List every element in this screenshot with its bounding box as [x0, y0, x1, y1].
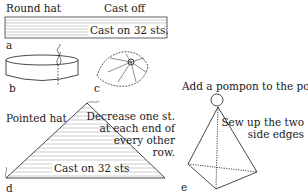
decrease-instruction-2: at each end of [99, 122, 175, 134]
strip-cast-on-label: Cast on 32 sts. [90, 24, 169, 36]
decrease-instruction-4: row. [153, 146, 175, 158]
pompon-icon [211, 94, 223, 106]
panel-label-c: c [94, 82, 100, 94]
knitting-hat-diagram: Round hat Cast off Cast on 32 sts. a b c… [0, 0, 308, 196]
panel-label-a: a [6, 39, 12, 51]
decrease-instruction-1: Decrease one st. [86, 110, 175, 122]
round-hat-title: Round hat [6, 2, 61, 14]
cylinder-b [6, 44, 78, 86]
sew-instruction-2: side edges [248, 128, 304, 140]
panel-label-b: b [9, 82, 16, 94]
sew-instruction-1: Sew up the two [221, 116, 304, 128]
decrease-instruction-3: every other [114, 134, 175, 146]
crown-c [97, 52, 148, 87]
triangle-cast-on-label: Cast on 32 sts [54, 162, 129, 174]
pompon-label: Add a pompon to the point [182, 80, 308, 92]
cast-off-label: Cast off [104, 2, 145, 14]
panel-label-e: e [181, 181, 187, 193]
panel-label-d: d [6, 182, 13, 194]
pointed-hat-title: Pointed hat [6, 112, 67, 124]
pyramid-e [188, 94, 257, 189]
